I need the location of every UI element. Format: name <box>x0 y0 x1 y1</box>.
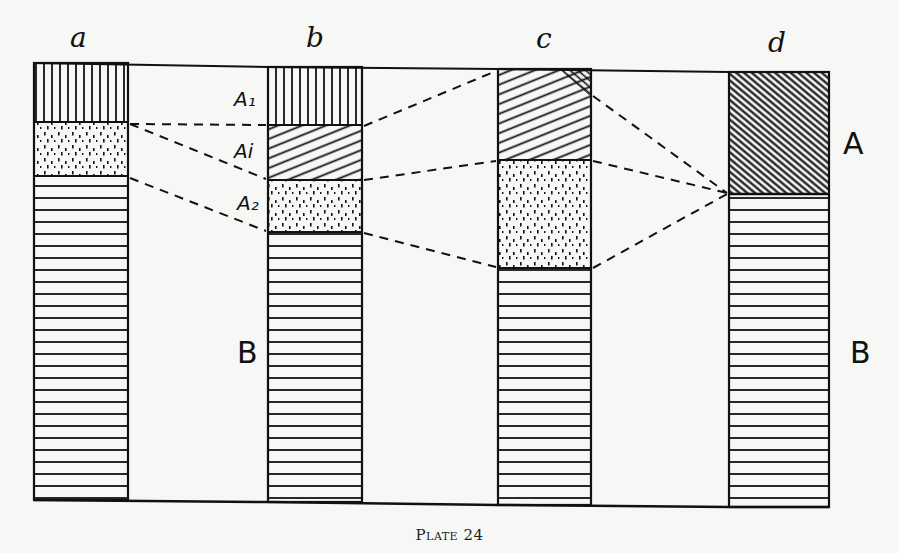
label-A2: A₂ <box>235 191 259 215</box>
correlation-b-c-top <box>364 71 496 126</box>
label-A1: A₁ <box>232 87 256 111</box>
profile-column-c <box>498 69 591 505</box>
correlation-b-c-low <box>364 233 496 267</box>
horizon-b-A2 <box>268 180 362 232</box>
label-B-horizon-left: B <box>237 335 258 370</box>
horizon-d-B <box>729 194 829 507</box>
soil-profile-diagram: a b c d <box>0 0 899 553</box>
horizon-b-Ai <box>268 125 362 180</box>
column-label-d: d <box>768 26 786 59</box>
profile-column-a <box>34 63 128 500</box>
horizon-b-A1 <box>268 67 362 125</box>
horizon-a-A2 <box>34 122 128 176</box>
correlation-lines <box>130 71 727 268</box>
horizon-b-B <box>268 232 362 502</box>
plate-caption: Plate 24 <box>0 526 899 544</box>
correlation-a-b-top <box>130 124 266 125</box>
correlation-b-c-mid <box>364 161 496 180</box>
column-label-a: a <box>70 21 87 54</box>
profile-column-d <box>729 72 829 507</box>
correlation-c-d-top <box>593 96 727 193</box>
label-A-horizon: A <box>843 126 864 161</box>
horizon-c-A2 <box>498 160 591 268</box>
correlation-c-d-low <box>593 194 727 268</box>
base-line <box>34 500 829 507</box>
label-B-horizon-right: B <box>850 335 871 370</box>
surface-line <box>34 63 829 72</box>
horizon-c-B <box>498 268 591 505</box>
column-label-b: b <box>306 21 324 54</box>
label-Ai: Ai <box>232 139 254 163</box>
horizon-a-B <box>34 176 128 500</box>
horizon-d-A <box>729 72 829 194</box>
profile-column-b <box>268 67 362 502</box>
horizon-a-A1 <box>34 63 128 122</box>
correlation-c-d-mid <box>593 161 727 193</box>
column-label-c: c <box>536 22 552 55</box>
